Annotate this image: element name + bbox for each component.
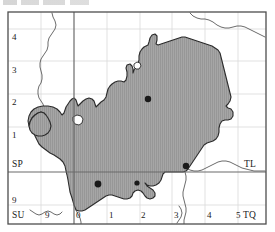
record-dot-2[interactable] bbox=[183, 163, 189, 169]
record-dot-4[interactable] bbox=[134, 180, 139, 185]
x-tick-1-0: 0 bbox=[76, 211, 81, 220]
x-tick-0-9: 9 bbox=[45, 211, 50, 220]
distribution-map-graphic bbox=[0, 0, 275, 232]
grid-square-label-tl: TL bbox=[244, 160, 256, 170]
x-tick-5-4: 4 bbox=[207, 211, 212, 220]
x-tick-3-2: 2 bbox=[141, 211, 146, 220]
x-tick-6-5: 5 bbox=[236, 211, 241, 220]
x-tick-4-3: 3 bbox=[174, 211, 179, 220]
record-dot-1[interactable] bbox=[145, 96, 151, 102]
y-tick-2: 2 bbox=[12, 98, 17, 107]
grid-square-label-sp: SP bbox=[12, 160, 23, 170]
grid-square-label-tq: TQ bbox=[243, 211, 256, 221]
y-tick-3: 3 bbox=[12, 66, 17, 75]
y-tick-9: 9 bbox=[12, 196, 17, 205]
x-tick-2-1: 1 bbox=[109, 211, 114, 220]
grid-square-label-su: SU bbox=[12, 211, 25, 221]
record-dot-3[interactable] bbox=[95, 181, 102, 188]
map-canvas: SPTLSUTQ432199012345 bbox=[0, 0, 275, 232]
y-tick-4: 4 bbox=[12, 33, 17, 42]
y-tick-1: 1 bbox=[12, 131, 17, 140]
